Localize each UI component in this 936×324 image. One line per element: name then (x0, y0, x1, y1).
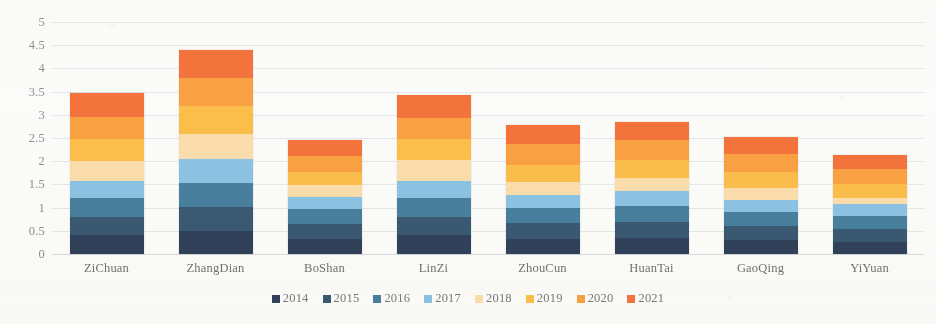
bar-segment-2021[interactable] (506, 125, 580, 144)
bar-segment-2017[interactable] (397, 181, 471, 199)
legend-item-2017[interactable]: 2017 (424, 291, 461, 306)
legend-swatch-icon (424, 295, 432, 303)
bar-segment-2014[interactable] (506, 239, 580, 254)
legend-label: 2014 (283, 291, 309, 306)
bar-segment-2015[interactable] (724, 226, 798, 240)
bar-group[interactable]: YiYuan (833, 22, 907, 254)
bar-segment-2015[interactable] (615, 222, 689, 238)
bar-segment-2020[interactable] (179, 78, 253, 106)
bar-segment-2016[interactable] (397, 198, 471, 217)
legend-label: 2020 (588, 291, 614, 306)
stacked-bar[interactable] (179, 50, 253, 254)
bar-segment-2015[interactable] (288, 224, 362, 239)
bar-segment-2019[interactable] (833, 184, 907, 198)
legend-item-2021[interactable]: 2021 (627, 291, 664, 306)
bar-segment-2021[interactable] (70, 93, 144, 117)
bar-segment-2021[interactable] (833, 155, 907, 169)
bar-segment-2020[interactable] (288, 156, 362, 172)
bar-segment-2014[interactable] (70, 235, 144, 254)
bar-segment-2019[interactable] (70, 139, 144, 161)
bar-segment-2020[interactable] (397, 118, 471, 139)
bar-segment-2018[interactable] (288, 185, 362, 197)
bar-series-container: ZiChuanZhangDianBoShanLinZiZhouCunHuanTa… (52, 22, 924, 254)
bar-segment-2019[interactable] (615, 160, 689, 178)
bar-segment-2015[interactable] (179, 207, 253, 231)
bar-group[interactable]: ZhouCun (506, 22, 580, 254)
stacked-bar[interactable] (833, 155, 907, 254)
stacked-bar-chart: 54.543.532.521.510.50 ZiChuanZhangDianBo… (0, 0, 936, 324)
bar-segment-2014[interactable] (288, 239, 362, 254)
legend-label: 2016 (384, 291, 410, 306)
stacked-bar[interactable] (615, 122, 689, 254)
bar-segment-2017[interactable] (833, 204, 907, 217)
bar-segment-2021[interactable] (179, 50, 253, 78)
bar-segment-2021[interactable] (397, 95, 471, 118)
bar-segment-2020[interactable] (833, 169, 907, 184)
bar-segment-2020[interactable] (506, 144, 580, 165)
bar-segment-2017[interactable] (615, 191, 689, 206)
bar-segment-2018[interactable] (724, 188, 798, 200)
bar-segment-2018[interactable] (70, 161, 144, 181)
y-axis-tick-label: 3 (39, 107, 45, 122)
legend-item-2015[interactable]: 2015 (323, 291, 360, 306)
bar-segment-2019[interactable] (724, 172, 798, 187)
legend-swatch-icon (526, 295, 534, 303)
bar-segment-2016[interactable] (615, 206, 689, 222)
bar-segment-2019[interactable] (397, 139, 471, 160)
stacked-bar[interactable] (288, 140, 362, 254)
bar-segment-2017[interactable] (70, 181, 144, 198)
legend-item-2019[interactable]: 2019 (526, 291, 563, 306)
legend-item-2020[interactable]: 2020 (577, 291, 614, 306)
legend-item-2018[interactable]: 2018 (475, 291, 512, 306)
bar-group[interactable]: HuanTai (615, 22, 689, 254)
bar-segment-2015[interactable] (506, 223, 580, 238)
bar-group[interactable]: LinZi (397, 22, 471, 254)
bar-segment-2020[interactable] (70, 117, 144, 139)
bar-segment-2017[interactable] (288, 197, 362, 209)
bar-segment-2016[interactable] (506, 208, 580, 223)
bar-segment-2019[interactable] (179, 106, 253, 134)
bar-segment-2021[interactable] (724, 137, 798, 155)
bar-segment-2017[interactable] (179, 159, 253, 182)
bar-segment-2016[interactable] (724, 212, 798, 226)
stacked-bar[interactable] (70, 93, 144, 254)
bar-segment-2016[interactable] (288, 209, 362, 223)
bar-group[interactable]: GaoQing (724, 22, 798, 254)
y-axis-tick-label: 1.5 (29, 177, 45, 192)
bar-segment-2014[interactable] (615, 238, 689, 254)
bar-segment-2018[interactable] (179, 134, 253, 160)
legend-item-2014[interactable]: 2014 (272, 291, 309, 306)
legend-swatch-icon (577, 295, 585, 303)
bar-segment-2014[interactable] (724, 240, 798, 254)
bar-segment-2016[interactable] (833, 216, 907, 229)
bar-segment-2015[interactable] (70, 217, 144, 236)
bar-segment-2020[interactable] (615, 140, 689, 160)
bar-segment-2017[interactable] (506, 195, 580, 208)
stacked-bar[interactable] (397, 95, 471, 254)
bar-segment-2019[interactable] (506, 165, 580, 183)
bar-segment-2020[interactable] (724, 154, 798, 172)
bar-segment-2015[interactable] (833, 229, 907, 242)
legend-swatch-icon (373, 295, 381, 303)
bar-segment-2016[interactable] (179, 183, 253, 207)
bar-segment-2018[interactable] (506, 182, 580, 195)
bar-group[interactable]: BoShan (288, 22, 362, 254)
bar-segment-2019[interactable] (288, 172, 362, 185)
bar-segment-2014[interactable] (179, 231, 253, 254)
bar-segment-2017[interactable] (724, 200, 798, 212)
y-axis-tick-label: 1 (39, 200, 45, 215)
bar-group[interactable]: ZiChuan (70, 22, 144, 254)
bar-segment-2014[interactable] (397, 235, 471, 254)
stacked-bar[interactable] (506, 125, 580, 254)
bar-group[interactable]: ZhangDian (179, 22, 253, 254)
bar-segment-2018[interactable] (397, 160, 471, 180)
bar-segment-2021[interactable] (615, 122, 689, 140)
legend-item-2016[interactable]: 2016 (373, 291, 410, 306)
legend-label: 2015 (334, 291, 360, 306)
bar-segment-2018[interactable] (615, 178, 689, 191)
bar-segment-2016[interactable] (70, 198, 144, 217)
bar-segment-2014[interactable] (833, 242, 907, 254)
bar-segment-2015[interactable] (397, 217, 471, 236)
bar-segment-2021[interactable] (288, 140, 362, 156)
stacked-bar[interactable] (724, 137, 798, 254)
